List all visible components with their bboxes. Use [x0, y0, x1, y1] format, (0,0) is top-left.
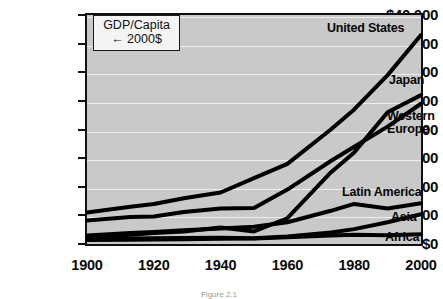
series-label-western-europe: Western Europe: [387, 110, 439, 136]
series-label-asia: Asia: [391, 211, 417, 224]
series-label-latin-america: Latin America: [342, 186, 422, 199]
x-tick-label: 1960: [257, 258, 317, 273]
legend-box: GDP/Capita ← 2000$: [93, 15, 180, 51]
x-tick-label: 2000: [391, 258, 443, 273]
x-tick-label: 1920: [124, 258, 184, 273]
x-tick-label: 1980: [324, 258, 384, 273]
figure-caption: Figure 2.1: [0, 291, 438, 299]
legend-title: GDP/Capita: [98, 18, 175, 32]
series-line-western-europe: [87, 104, 421, 221]
x-tick-label: 1940: [191, 258, 251, 273]
series-label-japan: Japan: [389, 74, 424, 87]
series-label-united-states: United States: [327, 22, 404, 35]
x-tick-label: 1900: [57, 258, 117, 273]
series-label-africa: Africa: [385, 231, 419, 244]
legend-units: ← 2000$: [98, 32, 175, 46]
